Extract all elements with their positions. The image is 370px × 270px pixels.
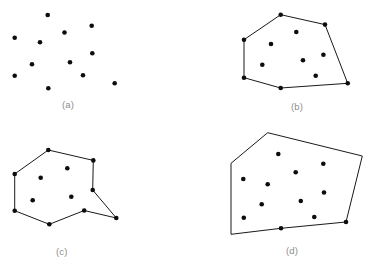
panel-d-point-9 [242,216,247,221]
panel-c-point-8 [82,208,87,213]
panel-a-point-9 [12,73,17,78]
panel-d-point-6 [299,199,304,204]
panel-b-point-10 [345,81,350,86]
panel-a-point-6 [68,60,73,65]
panel-d-point-5 [322,190,327,195]
panel-d-point-0 [276,152,281,157]
panel-caption-d: (d) [286,245,298,256]
panel-d-point-11 [279,226,284,231]
panel-b-point-2 [294,30,299,35]
panel-b-point-6 [301,58,306,63]
panel-caption-c: (c) [56,246,68,257]
panel-caption-b: (b) [291,101,303,112]
panel-c-point-2 [65,166,70,171]
panel-c-point-5 [90,188,95,193]
panel-caption-a: (a) [62,99,74,110]
panel-b-point-5 [321,53,326,58]
panel-d-point-10 [344,220,349,225]
panel-c-point-9 [12,208,17,213]
panel-c-point-11 [47,222,52,227]
figure-background [0,0,370,270]
panel-a-point-8 [81,73,86,78]
panel-d-point-2 [293,170,298,175]
panel-b-point-3 [242,37,247,42]
panel-a-point-7 [30,62,35,67]
panel-a-point-10 [112,81,117,86]
panel-a-point-4 [38,40,43,45]
panel-c-point-10 [114,216,119,221]
figure-container: (a) (b) (c) (d) [0,0,370,270]
panel-d-point-3 [241,177,246,182]
panel-d-point-8 [312,215,317,220]
panel-c-point-3 [12,172,17,177]
scatter-polygon-figure [0,0,370,270]
panel-b-point-7 [260,62,265,67]
panel-a-point-2 [62,30,67,35]
panel-a-point-11 [46,86,51,91]
panel-b-point-1 [323,22,328,27]
panel-c-point-1 [91,158,96,163]
panel-b-point-11 [278,86,283,91]
panel-a-point-5 [90,51,95,56]
panel-b-point-9 [242,75,247,80]
panel-c-point-0 [46,148,51,153]
panel-b-point-8 [313,73,318,78]
panel-b-point-0 [278,12,283,17]
panel-a-point-1 [89,23,94,28]
panel-c-point-4 [38,175,43,180]
panel-a-point-0 [45,13,50,18]
panel-d-point-7 [259,202,264,207]
panel-b-point-4 [269,42,274,47]
panel-d-point-1 [321,162,326,167]
panel-d-point-4 [265,182,270,187]
panel-c-point-6 [69,194,74,199]
panel-c-point-7 [30,198,35,203]
panel-a-point-3 [12,35,17,40]
